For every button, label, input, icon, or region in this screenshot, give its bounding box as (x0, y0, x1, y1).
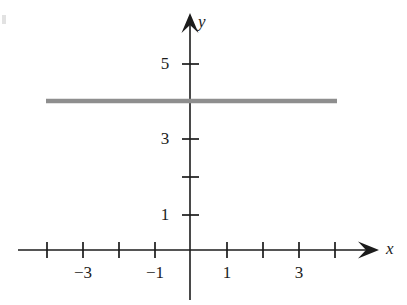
x-tick-label--1: −1 (138, 264, 172, 281)
y-tick-label-1: 1 (156, 206, 174, 223)
coordinate-plane (0, 0, 407, 305)
y-tick-label-3: 3 (156, 130, 174, 147)
y-tick-label-5: 5 (156, 55, 174, 72)
y-axis-label: y (198, 13, 206, 30)
x-tick-label-3: 3 (286, 264, 312, 281)
graph-figure: 5 3 1 −3 −1 1 3 x y (0, 0, 407, 305)
x-tick-label-1: 1 (214, 264, 240, 281)
x-axis-label: x (386, 240, 394, 257)
x-tick-label--3: −3 (66, 264, 100, 281)
